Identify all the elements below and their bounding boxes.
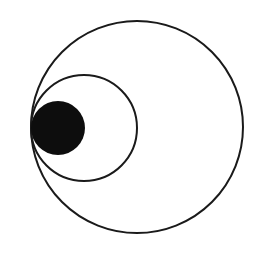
inner-filled-circle	[31, 101, 85, 155]
nested-circles-diagram	[0, 0, 261, 253]
